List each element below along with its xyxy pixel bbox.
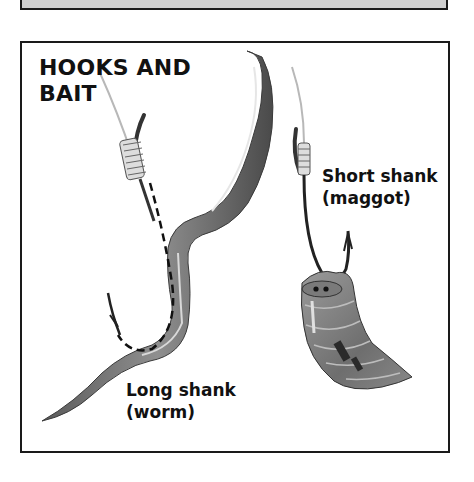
short-shank-label: Short shank xyxy=(322,165,438,187)
panel-title: HOOKS AND BAIT xyxy=(39,55,191,107)
previous-illustration-panel xyxy=(20,0,448,10)
worm-label: (worm) xyxy=(126,401,236,423)
long-shank-caption: Long shank (worm) xyxy=(126,379,236,423)
title-line-2: BAIT xyxy=(39,81,191,107)
long-shank-label: Long shank xyxy=(126,379,236,401)
short-shank-hook-maggot-illustration xyxy=(292,67,412,389)
maggot-label: (maggot) xyxy=(322,187,438,209)
short-shank-caption: Short shank (maggot) xyxy=(322,165,438,209)
title-line-1: HOOKS AND xyxy=(39,55,191,81)
hooks-and-bait-panel: HOOKS AND BAIT Short shank (maggot) Long… xyxy=(20,41,450,453)
